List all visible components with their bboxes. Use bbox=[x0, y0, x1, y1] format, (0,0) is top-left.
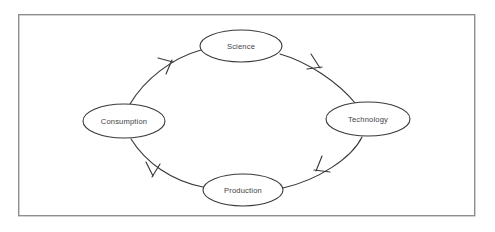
node-production-label: Production bbox=[224, 186, 262, 195]
node-technology-label: Technology bbox=[348, 115, 388, 124]
node-technology[interactable]: Technology bbox=[326, 102, 410, 136]
node-science[interactable]: Science bbox=[200, 30, 282, 62]
node-consumption-label: Consumption bbox=[101, 117, 147, 126]
cycle-diagram-canvas: Science Technology Production Consumptio… bbox=[0, 0, 495, 232]
cycle-diagram: Science Technology Production Consumptio… bbox=[0, 0, 495, 232]
node-science-label: Science bbox=[227, 42, 255, 51]
node-production[interactable]: Production bbox=[203, 174, 283, 206]
node-consumption[interactable]: Consumption bbox=[83, 104, 165, 138]
